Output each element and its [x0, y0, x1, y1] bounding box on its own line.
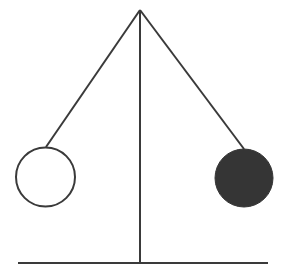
- background: [0, 0, 288, 272]
- hollow-ball: [16, 148, 75, 207]
- solid-ball: [215, 149, 273, 207]
- pendulum-diagram: [0, 0, 288, 272]
